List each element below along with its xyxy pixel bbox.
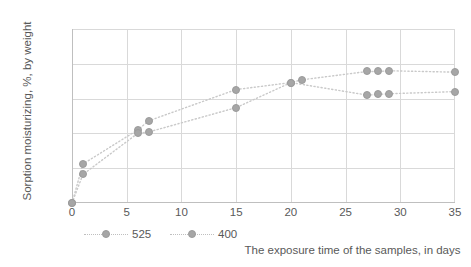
x-tick-label: 30 — [380, 206, 420, 218]
x-tick-label: 0 — [52, 206, 92, 218]
y-axis-title: Sorption moisturizing, %, by weight — [21, 6, 33, 216]
x-tick-label: 25 — [326, 206, 366, 218]
legend-item-400[interactable]: 400 — [170, 228, 240, 240]
data-point-525 — [145, 117, 153, 125]
data-point-525 — [79, 160, 87, 168]
legend-item-525[interactable]: 525 — [84, 228, 154, 240]
x-tick-label: 20 — [271, 206, 311, 218]
plot-area — [72, 29, 455, 203]
data-point-400 — [232, 104, 240, 112]
data-point-525 — [232, 86, 240, 94]
x-tick-label: 35 — [435, 206, 471, 218]
data-point-400 — [145, 128, 153, 136]
legend-label: 400 — [218, 228, 240, 240]
legend-marker-icon — [170, 230, 214, 239]
x-tick-label: 15 — [216, 206, 256, 218]
series-line-525 — [72, 71, 455, 203]
legend-marker-icon — [84, 230, 128, 239]
data-point-400 — [287, 79, 295, 87]
data-point-525 — [451, 68, 459, 76]
chart-legend: 525 400 — [84, 228, 240, 240]
series-trend-lines — [72, 29, 455, 203]
legend-label: 525 — [132, 228, 154, 240]
sorption-moisturizing-chart: Sorption moisturizing, %, by weight 0 5 … — [0, 0, 471, 267]
data-point-400 — [451, 88, 459, 96]
series-line-400 — [72, 83, 455, 203]
x-tick-label: 10 — [161, 206, 201, 218]
x-tick-label: 5 — [107, 206, 147, 218]
data-point-525 — [298, 76, 306, 84]
x-axis-title: The exposure time of the samples, in day… — [240, 244, 465, 256]
